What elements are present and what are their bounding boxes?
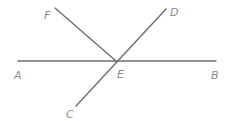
geometry-diagram: F D A E B C [0,0,230,121]
point-label-e: E [117,68,124,81]
point-label-a: A [13,69,22,82]
point-label-b: B [211,69,219,82]
line-cd [76,9,166,106]
line-ef [55,8,116,61]
point-label-d: D [170,6,178,19]
point-label-f: F [44,9,51,22]
point-label-c: C [66,108,74,121]
